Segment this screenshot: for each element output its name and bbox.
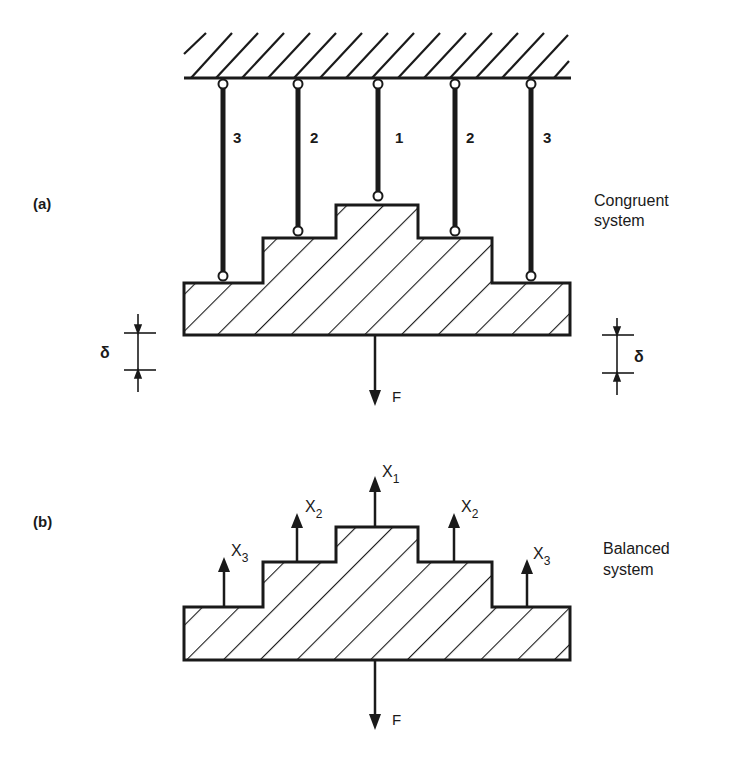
stepped-body-a	[180, 200, 575, 340]
displacement-marker-left	[124, 314, 156, 392]
reaction-arrow-x3-right	[521, 559, 533, 607]
rod-2-right	[451, 80, 460, 236]
rod-2-left	[294, 80, 303, 236]
rod-label-3-left: 3	[233, 129, 241, 146]
load-arrow-b	[369, 661, 381, 730]
structural-diagram: 3 2 1 2 3 F δ δ (a) Congruent system	[0, 0, 739, 758]
rod-3-left	[219, 80, 228, 281]
reaction-arrow-x2-right	[448, 513, 460, 562]
load-arrow-a	[369, 336, 381, 406]
caption-b-line2: system	[603, 561, 654, 578]
rod-label-1: 1	[395, 129, 403, 146]
rod-label-2-right: 2	[466, 129, 474, 146]
caption-a-line1: Congruent	[594, 192, 669, 209]
delta-label-right: δ	[634, 348, 644, 365]
load-label-b: F	[392, 711, 401, 728]
rod-3-right	[527, 80, 536, 281]
rod-label-2-left: 2	[310, 129, 318, 146]
displacement-marker-right	[602, 318, 634, 395]
reaction-label-x2-right: X2	[461, 498, 479, 521]
part-b-label: (b)	[33, 513, 52, 530]
caption-b-line1: Balanced	[603, 540, 670, 557]
reaction-label-x3-left: X3	[231, 542, 249, 565]
rod-label-3-right: 3	[543, 129, 551, 146]
reaction-arrow-x3-left	[218, 557, 230, 607]
reaction-label-x1: X1	[382, 463, 400, 486]
caption-a-line2: system	[594, 212, 645, 229]
reaction-label-x2-left: X2	[305, 498, 323, 521]
load-label-a: F	[392, 388, 401, 405]
rod-1-center	[374, 80, 383, 201]
reaction-arrow-x1	[369, 476, 381, 527]
part-a-label: (a)	[33, 195, 51, 212]
ceiling-support	[184, 33, 571, 78]
delta-label-left: δ	[100, 344, 110, 361]
reaction-arrow-x2-left	[291, 513, 303, 562]
reaction-label-x3-right: X3	[533, 545, 551, 568]
